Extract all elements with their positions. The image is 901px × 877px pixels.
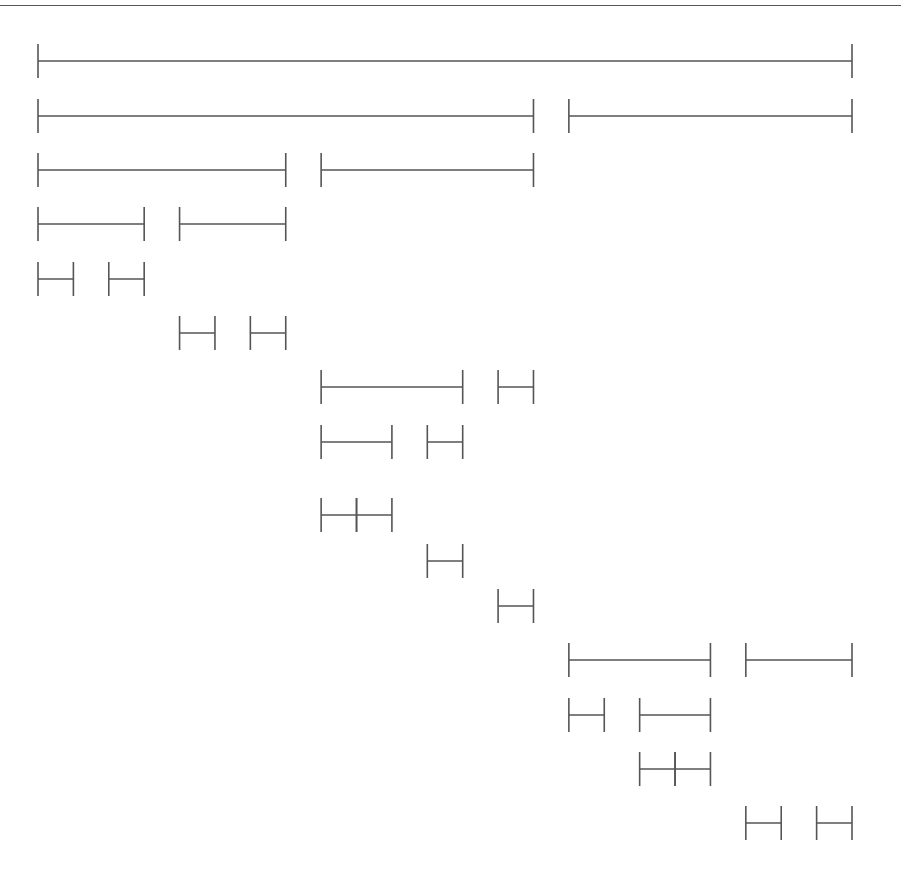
interval-segment [746, 806, 781, 840]
level-row-4 [38, 207, 286, 241]
level-row-5 [38, 262, 144, 296]
level-row-11 [498, 589, 533, 623]
interval-segment [569, 643, 711, 677]
interval-segment [640, 752, 675, 786]
interval-partition-diagram [0, 0, 901, 877]
level-row-8 [321, 425, 463, 459]
interval-segment [38, 262, 73, 296]
interval-segment [498, 370, 533, 404]
interval-segment [817, 806, 852, 840]
interval-segment [498, 589, 533, 623]
level-row-3 [38, 153, 533, 187]
level-row-10 [427, 544, 462, 578]
interval-segment [38, 153, 286, 187]
interval-segment [38, 44, 852, 78]
interval-segment [746, 643, 852, 677]
interval-segment [109, 262, 144, 296]
level-row-2 [38, 99, 852, 133]
interval-segment [357, 498, 392, 532]
interval-segment [675, 752, 710, 786]
interval-segment [569, 99, 852, 133]
level-row-14 [640, 752, 711, 786]
interval-segment [180, 207, 286, 241]
level-row-9 [321, 498, 392, 532]
interval-segment [250, 316, 285, 350]
level-row-13 [569, 698, 711, 732]
interval-segment [321, 153, 533, 187]
interval-segment [321, 498, 356, 532]
interval-segment [38, 207, 144, 241]
interval-segment [180, 316, 215, 350]
interval-segment [427, 544, 462, 578]
level-row-7 [321, 370, 533, 404]
level-row-12 [569, 643, 852, 677]
level-row-1 [38, 44, 852, 78]
interval-segment [427, 425, 462, 459]
level-row-15 [746, 806, 852, 840]
interval-segment [640, 698, 711, 732]
level-row-6 [180, 316, 286, 350]
interval-segment [321, 370, 463, 404]
interval-segment [321, 425, 392, 459]
interval-segment [569, 698, 604, 732]
interval-segment [38, 99, 533, 133]
